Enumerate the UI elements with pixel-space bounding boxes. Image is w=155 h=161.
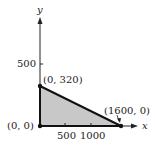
- y-tick-label-500: 500: [17, 58, 36, 69]
- vertex-label-y: (0, 320): [43, 74, 83, 85]
- vertex-origin: [38, 124, 42, 128]
- vertex-x: [119, 124, 123, 128]
- y-axis-arrow-icon: [38, 17, 43, 24]
- vertex-label-x: (1600, 0): [104, 105, 150, 116]
- vertex-y: [38, 84, 42, 88]
- x-tick-label-500: 500: [57, 130, 76, 141]
- x-tick-label-1000: 1000: [80, 130, 105, 141]
- pointer-arrow-icon: [117, 118, 121, 123]
- x-axis-label: x: [142, 120, 148, 131]
- feasible-region-chart: y x 500 500 1000 (0, 0) (0, 320) (1600, …: [0, 0, 155, 161]
- vertex-label-origin: (0, 0): [7, 120, 34, 131]
- y-axis-label: y: [36, 4, 43, 15]
- x-axis-arrow-icon: [131, 124, 138, 129]
